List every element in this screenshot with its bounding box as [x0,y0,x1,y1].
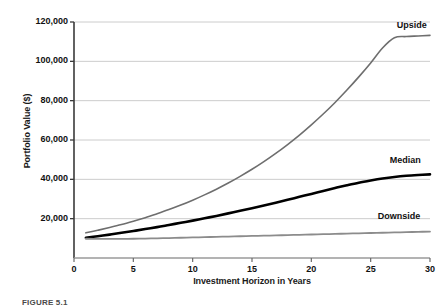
axis-ticks-group [70,22,430,262]
gridlines-group [74,22,430,219]
y-tick-label: 60,000 [12,134,68,144]
series-label-downside: Downside [378,211,421,221]
y-tick-label: 20,000 [12,213,68,223]
x-axis-title: Investment Horizon in Years [74,276,430,286]
x-tick-label: 25 [356,264,386,274]
y-tick-label: 120,000 [12,16,68,26]
series-line-median [86,174,430,237]
x-tick-label: 0 [59,264,89,274]
chart-canvas [0,0,444,290]
series-line-downside [86,232,430,239]
x-tick-label: 5 [118,264,148,274]
y-tick-label: 40,000 [12,173,68,183]
series-label-upside: Upside [397,20,427,30]
chart-area: 20,00040,00060,00080,000100,000120,000 0… [0,0,444,290]
x-tick-label: 10 [178,264,208,274]
figure-root: 20,00040,00060,00080,000100,000120,000 0… [0,0,444,307]
x-tick-label: 20 [296,264,326,274]
series-lines-group [86,35,430,239]
x-tick-label: 30 [415,264,444,274]
y-axis-title: Portfolio Value ($) [22,61,32,201]
series-label-median: Median [390,155,421,165]
y-tick-label: 80,000 [12,95,68,105]
y-tick-label: 100,000 [12,55,68,65]
figure-caption: FIGURE 5.1 [22,298,68,307]
x-tick-label: 15 [237,264,267,274]
series-line-upside [86,35,430,232]
